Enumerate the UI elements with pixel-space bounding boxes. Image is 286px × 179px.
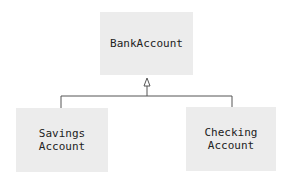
class-box-checking-account: Checking Account [186, 107, 276, 171]
class-label-checking-line1: Checking [205, 126, 258, 139]
class-box-savings-account: Savings Account [16, 108, 108, 172]
class-label-savings-line1: Savings [39, 127, 85, 140]
class-label-savings-line2: Account [39, 140, 85, 153]
class-label-checking-line2: Account [205, 139, 258, 152]
